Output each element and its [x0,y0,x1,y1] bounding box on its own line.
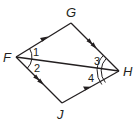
angle-label-4: 4 [88,72,94,84]
vertex-label-h: H [123,64,133,79]
double-arrow-icon-fj [33,75,44,86]
vertex-label-f: F [3,50,12,65]
vertex-label-j: J [56,107,64,122]
angle-label-3: 3 [94,55,100,67]
angle-label-1: 1 [33,46,39,58]
geometry-figure: G F H J 1 2 3 4 [0,0,139,128]
vertex-label-g: G [66,5,76,20]
double-arrow-icon-gh [87,38,98,49]
angle-label-2: 2 [34,62,40,74]
